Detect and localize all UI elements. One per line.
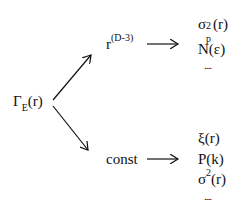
output-n-epsilon: N(ε) [198,42,225,57]
arrow-to-lower-branch [53,106,88,150]
upper-branch-superscript: (D-3) [111,32,133,43]
sigma-superscript: 2 [206,167,211,178]
sigma-argument: (r) [211,171,226,187]
sigma-base: σ [198,171,206,187]
source-base: Γ [13,93,22,109]
source-node-gamma-e: ΓE(r) [13,94,43,109]
lower-branch-label: const [106,152,138,167]
source-subscript: E [22,102,28,113]
output-upper-ellipsis: .... [204,60,211,71]
output-sigma2: σ2(r) [198,172,226,187]
output-pk: P(k) [198,152,224,167]
output-xi: ξ(r) [198,131,220,146]
sigma-superscript: 2 [206,21,211,31]
sigma-argument: (r) [213,16,228,32]
sigma-base: σ [198,16,206,32]
source-argument: (r) [28,93,43,109]
output-lower-ellipsis: .... [204,191,211,202]
upper-branch-label: r(D-3) [106,37,133,52]
output-sigma2p: σ2p(r) [198,17,228,32]
arrow-to-upper-branch [53,55,91,100]
